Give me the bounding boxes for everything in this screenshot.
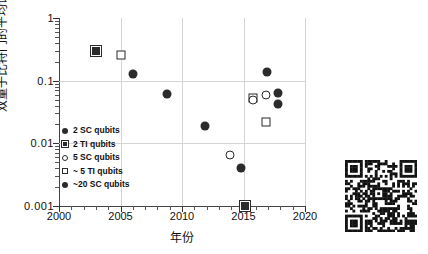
y-tick-minor <box>55 153 59 154</box>
y-tick-minor <box>55 100 59 101</box>
y-tick-major <box>53 81 59 82</box>
y-tick-minor <box>55 157 59 158</box>
data-point <box>261 91 270 100</box>
y-tick-minor <box>55 124 59 125</box>
chart-legend: 2 SC qubits2 TI qubits5 SC qubits~ 5 TI … <box>62 124 129 192</box>
marker-square-open-icon <box>62 168 68 174</box>
y-tick-minor <box>55 146 59 147</box>
legend-item: 5 SC qubits <box>62 151 129 165</box>
y-tick-major <box>53 143 59 144</box>
marker-square-target-icon <box>62 141 68 147</box>
y-tick-minor <box>55 84 59 85</box>
legend-marker-icon <box>62 168 73 174</box>
y-axis-title: 双量子比特门的平均误码率 <box>0 0 9 112</box>
data-point <box>261 117 270 126</box>
x-tick-minor <box>84 206 85 210</box>
data-point <box>249 95 258 104</box>
legend-item: 2 SC qubits <box>62 124 129 138</box>
data-point <box>116 50 125 59</box>
x-tick-label: 2015 <box>231 210 255 222</box>
x-tick-label: 2000 <box>47 210 71 222</box>
gridline-vertical <box>182 18 183 206</box>
data-point <box>262 68 271 77</box>
marker-circle-open-icon <box>62 155 68 161</box>
y-tick-label: 0.1 <box>37 75 54 87</box>
data-point <box>273 99 282 108</box>
y-tick-minor <box>55 90 59 91</box>
legend-item: ~ 5 TI qubits <box>62 165 129 179</box>
data-point <box>273 89 282 98</box>
legend-label: 5 SC qubits <box>73 151 120 165</box>
data-point <box>201 121 210 130</box>
y-tick-minor <box>55 95 59 96</box>
legend-marker-icon <box>62 141 73 147</box>
figure-scatter-gate-error-vs-year: 0.0010.010.11 双量子比特门的平均误码率 年份 2000200520… <box>0 0 428 254</box>
y-tick-major <box>53 18 59 19</box>
legend-item: 2 TI qubits <box>62 138 129 152</box>
y-tick-minor <box>55 187 59 188</box>
x-tick-minor <box>268 206 269 210</box>
y-tick-minor <box>55 43 59 44</box>
y-tick-minor <box>55 28 59 29</box>
legend-label: ~20 SC qubits <box>73 178 129 192</box>
y-tick-minor <box>55 62 59 63</box>
gridline-vertical <box>305 18 306 206</box>
x-tick-minor <box>71 206 72 210</box>
x-tick-minor <box>207 206 208 210</box>
y-tick-label: 0.01 <box>31 137 54 149</box>
y-tick-minor <box>55 51 59 52</box>
legend-marker-icon <box>62 182 73 188</box>
x-tick-minor <box>96 206 97 210</box>
legend-marker-icon <box>62 155 73 161</box>
gridline-vertical <box>244 18 245 206</box>
legend-item: ~20 SC qubits <box>62 178 129 192</box>
legend-label: 2 SC qubits <box>73 124 120 138</box>
y-tick-minor <box>55 162 59 163</box>
x-tick-minor <box>145 206 146 210</box>
y-tick-minor <box>55 21 59 22</box>
legend-marker-icon <box>62 128 73 134</box>
data-point <box>91 46 101 56</box>
x-tick-minor <box>133 206 134 210</box>
x-tick-minor <box>219 206 220 210</box>
data-point <box>163 89 172 98</box>
x-tick-minor <box>157 206 158 210</box>
y-tick-minor <box>55 37 59 38</box>
y-tick-minor <box>55 87 59 88</box>
x-tick-minor <box>280 206 281 210</box>
x-axis-title: 年份 <box>59 228 305 245</box>
x-tick-label: 2020 <box>293 210 317 222</box>
data-point <box>128 69 137 78</box>
y-tick-minor <box>55 24 59 25</box>
x-tick-label: 2005 <box>108 210 132 222</box>
y-tick-minor <box>55 106 59 107</box>
data-point <box>225 151 234 160</box>
legend-label: ~ 5 TI qubits <box>73 165 123 179</box>
x-tick-minor <box>256 206 257 210</box>
y-tick-minor <box>55 168 59 169</box>
y-tick-minor <box>55 176 59 177</box>
legend-label: 2 TI qubits <box>73 138 116 152</box>
qr-code-canvas <box>345 160 417 232</box>
gridline-horizontal <box>59 81 305 82</box>
data-point <box>237 164 246 173</box>
y-tick-minor <box>55 32 59 33</box>
y-tick-minor <box>55 149 59 150</box>
y-tick-minor <box>55 113 59 114</box>
qr-code[interactable] <box>345 160 417 232</box>
marker-circle-filled-icon <box>62 128 68 134</box>
x-tick-label: 2010 <box>170 210 194 222</box>
marker-circle-filled-icon <box>62 182 68 188</box>
x-tick-minor <box>194 206 195 210</box>
